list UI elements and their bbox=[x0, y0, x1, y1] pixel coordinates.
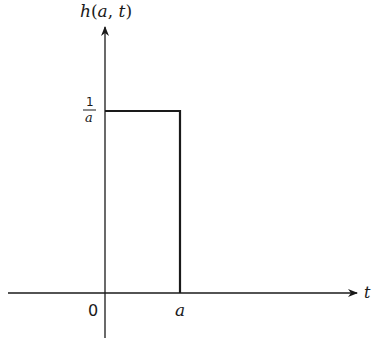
y-tick-denominator: a bbox=[85, 110, 93, 125]
x-axis-label: t bbox=[364, 283, 371, 302]
pulse-diagram: h(a, t) t 0 a 1 a bbox=[0, 0, 373, 343]
x-tick-label-a: a bbox=[175, 300, 185, 320]
origin-label: 0 bbox=[88, 301, 98, 320]
rectangular-pulse bbox=[105, 111, 180, 293]
y-tick-numerator: 1 bbox=[86, 95, 94, 109]
y-axis-label: h(a, t) bbox=[80, 1, 132, 21]
